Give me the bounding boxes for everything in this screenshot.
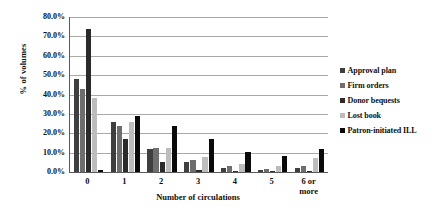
bar xyxy=(153,148,158,172)
bar xyxy=(86,29,91,172)
bar xyxy=(258,170,263,172)
x-axis-title: Number of circulations xyxy=(69,192,327,202)
y-axis-tick-label: 30.0% xyxy=(21,110,65,118)
bar xyxy=(245,152,250,172)
y-axis-tick-label: 60.0% xyxy=(21,52,65,60)
bar xyxy=(319,149,324,172)
bar xyxy=(98,170,103,172)
y-axis-tick-label: 0.0% xyxy=(21,168,65,176)
legend-item[interactable]: Approval plan xyxy=(340,63,444,78)
legend-label: Donor bequests xyxy=(348,96,400,105)
bar xyxy=(184,162,189,172)
legend-item[interactable]: Firm orders xyxy=(340,78,444,93)
legend-item[interactable]: Lost book xyxy=(340,108,444,123)
bar xyxy=(80,89,85,172)
bar xyxy=(123,139,128,172)
bar xyxy=(282,156,287,172)
bar xyxy=(92,98,97,172)
bar xyxy=(301,166,306,172)
y-axis-tick-label: 10.0% xyxy=(21,149,65,157)
bar xyxy=(264,169,269,172)
bar xyxy=(117,126,122,173)
legend-swatch-icon xyxy=(340,98,345,103)
bar xyxy=(129,122,134,172)
bar xyxy=(166,148,171,172)
bar xyxy=(295,168,300,172)
bar xyxy=(172,126,177,173)
bar-clusters xyxy=(70,17,328,172)
y-axis-tick-labels: 0.0%10.0%20.0%30.0%40.0%50.0%60.0%70.0%8… xyxy=(22,12,68,176)
legend-swatch-icon xyxy=(340,113,345,118)
bar xyxy=(307,171,312,172)
bar-cluster xyxy=(144,17,181,172)
legend-label: Patron-initiated ILL xyxy=(348,126,417,135)
bar xyxy=(233,171,238,172)
bar-cluster xyxy=(254,17,291,172)
legend-swatch-icon xyxy=(340,128,345,133)
bar xyxy=(190,160,195,172)
y-axis-tick-label: 20.0% xyxy=(21,129,65,137)
y-axis-tick-label: 40.0% xyxy=(21,91,65,99)
legend-item[interactable]: Patron-initiated ILL xyxy=(340,123,444,138)
bar-cluster xyxy=(181,17,218,172)
legend-label: Lost book xyxy=(348,111,382,120)
y-axis-tick-label: 50.0% xyxy=(21,71,65,79)
bar xyxy=(313,158,318,172)
legend-swatch-icon xyxy=(340,83,345,88)
plot-area xyxy=(69,17,328,173)
y-axis-tick-label: 80.0% xyxy=(21,13,65,21)
bar xyxy=(74,79,79,172)
legend-item[interactable]: Donor bequests xyxy=(340,93,444,108)
bar xyxy=(196,170,201,172)
bar-cluster xyxy=(70,17,107,172)
bar xyxy=(227,166,232,172)
bar xyxy=(111,122,116,172)
bar xyxy=(221,168,226,172)
y-axis-tick-label: 70.0% xyxy=(21,32,65,40)
chart-legend: Approval planFirm ordersDonor bequestsLo… xyxy=(340,63,444,138)
bar-cluster xyxy=(291,17,328,172)
bar xyxy=(270,171,275,172)
bar-cluster xyxy=(217,17,254,172)
bar-cluster xyxy=(107,17,144,172)
legend-label: Firm orders xyxy=(348,81,389,90)
bar xyxy=(202,157,207,172)
legend-label: Approval plan xyxy=(348,66,397,75)
legend-swatch-icon xyxy=(340,68,345,73)
bar xyxy=(135,116,140,172)
bar xyxy=(147,149,152,172)
bar xyxy=(239,164,244,172)
bar xyxy=(160,162,165,172)
bar-chart: % of volumes 0.0%10.0%20.0%30.0%40.0%50.… xyxy=(0,0,444,214)
bar xyxy=(209,139,214,172)
bar xyxy=(276,166,281,172)
